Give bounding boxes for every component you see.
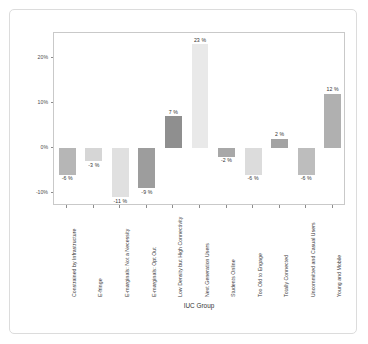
x-tick-label-text: E-marginals: Not a Necessity [122, 209, 132, 297]
x-tick-mark [172, 205, 173, 208]
bar-value-label: 2 % [275, 131, 284, 137]
y-axis-title: Difference from National Average [8, 0, 20, 32]
bar-value-label: -6 % [301, 175, 312, 181]
x-tick-label-text: Next Generation Users [202, 209, 212, 297]
x-tick-label-text: Low Density but High Connectivity [175, 209, 185, 297]
x-tick-label: E-marginals: Opt Out [149, 209, 159, 297]
bar [85, 148, 102, 161]
bar [59, 148, 76, 175]
x-tick-mark [252, 205, 253, 208]
x-tick-mark [332, 205, 333, 208]
x-axis-labels: Constrained by InfrastructureE-fringeE-m… [53, 209, 345, 297]
x-tick-mark [279, 205, 280, 208]
x-axis-title: IUC Group [53, 302, 345, 309]
bar-value-label: 23 % [194, 37, 206, 43]
x-tick-label-text: Totally Connected [281, 209, 291, 297]
bar-value-label: -6 % [248, 175, 259, 181]
y-tick-label: 0% [41, 144, 49, 150]
bar [271, 139, 288, 148]
bar-value-label: -2 % [221, 157, 232, 163]
x-tick-label-text: Constrained by Infrastructure [69, 209, 79, 297]
x-tick-mark [119, 205, 120, 208]
x-tick-label-text: Students Online [228, 209, 238, 297]
x-tick-mark [93, 205, 94, 208]
bar [218, 148, 235, 157]
x-tick-label: Constrained by Infrastructure [69, 209, 79, 297]
x-tick-mark [226, 205, 227, 208]
bar-value-label: -9 % [141, 189, 152, 195]
x-tick-label: Students Online [228, 209, 238, 297]
x-tick-mark [66, 205, 67, 208]
y-tick-label: 20% [38, 54, 48, 60]
x-tick-label: E-fringe [95, 209, 105, 297]
y-tick-label: -10% [36, 189, 48, 195]
bar-value-label: -6 % [62, 175, 73, 181]
bar-value-label: -11 % [114, 198, 128, 204]
x-tick-label-text: E-fringe [95, 209, 105, 297]
bar-value-label: 7 % [169, 109, 178, 115]
x-tick-label: Young and Mobile [334, 209, 344, 297]
x-tick-label: Uncommitted and Casual Users [308, 209, 318, 297]
plot-panel: -6 %-3 %-11 %-9 %7 %23 %-2 %-6 %2 %-6 %1… [53, 32, 345, 205]
y-tick-label: 10% [38, 99, 48, 105]
bar [192, 44, 209, 147]
bar [112, 148, 129, 197]
y-axis-ticks: 20%10%0%-10% [30, 32, 53, 205]
x-tick-label: Too Old to Engage [255, 209, 265, 297]
x-tick-label: Totally Connected [281, 209, 291, 297]
x-tick-label-text: Too Old to Engage [255, 209, 265, 297]
bar [245, 148, 262, 175]
bar-value-label: -3 % [88, 162, 99, 168]
x-tick-mark [146, 205, 147, 208]
x-tick-label-text: E-marginals: Opt Out [149, 209, 159, 297]
bar [165, 116, 182, 147]
chart-figure: Difference from National Average 20%10%0… [0, 0, 368, 344]
bar [298, 148, 315, 175]
x-tick-label: Next Generation Users [202, 209, 212, 297]
x-tick-label: E-marginals: Not a Necessity [122, 209, 132, 297]
bar-value-label: 12 % [327, 86, 339, 92]
x-tick-mark [305, 205, 306, 208]
x-tick-label: Low Density but High Connectivity [175, 209, 185, 297]
bar [138, 148, 155, 188]
x-tick-mark [199, 205, 200, 208]
x-tick-label-text: Young and Mobile [334, 209, 344, 297]
bar [324, 94, 341, 148]
x-tick-label-text: Uncommitted and Casual Users [308, 209, 318, 297]
